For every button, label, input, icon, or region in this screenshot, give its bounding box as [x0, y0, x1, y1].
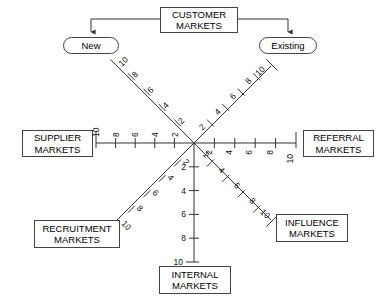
tick-label-internal-8: 8: [181, 233, 186, 243]
influence-markets-box[interactable]: INFLUENCE MARKETS: [276, 214, 348, 242]
tick-existing-2: [207, 120, 214, 127]
tick-label-referral-10: 10: [285, 154, 295, 164]
tick-existing-6: [238, 89, 245, 96]
tick-label-supplier-4: 4: [150, 132, 160, 137]
connector-right-branch: [238, 19, 288, 32]
supplier-markets-line2: MARKETS: [35, 144, 81, 156]
tick-recruitment-2: [174, 160, 181, 167]
axis-existing-customer: 2 4 6 8 10: [194, 60, 278, 144]
tick-recruitment-6: [143, 190, 150, 197]
tick-label-internal-4: 4: [181, 186, 186, 196]
tick-label-supplier-2: 2: [170, 132, 180, 137]
tick-influence-8: [253, 206, 260, 213]
tick-label-recruitment-6: 6: [150, 188, 161, 199]
tick-label-referral-6: 6: [244, 150, 254, 155]
internal-markets-box[interactable]: INTERNAL MARKETS: [159, 266, 231, 294]
customer-markets-line1: CUSTOMER: [172, 9, 226, 21]
tick-label-new-6: 6: [145, 85, 156, 96]
customer-markets-box[interactable]: CUSTOMER MARKETS: [160, 7, 238, 33]
tick-label-internal-6: 6: [181, 209, 186, 219]
recruitment-markets-line1: RECRUITMENT: [42, 223, 111, 235]
tick-influence-4: [222, 175, 229, 182]
tick-label-referral-4: 4: [224, 150, 234, 155]
influence-markets-line2: MARKETS: [289, 228, 335, 240]
customer-markets-line2: MARKETS: [176, 20, 222, 32]
six-markets-diagram: 2 4 6 8 10 2 4 6 8 10 2: [0, 0, 384, 303]
supplier-markets-line1: SUPPLIER: [34, 132, 81, 144]
recruitment-markets-line2: MARKETS: [54, 234, 100, 246]
tick-label-referral-8: 8: [265, 150, 275, 155]
recruitment-markets-box[interactable]: RECRUITMENT MARKETS: [34, 220, 120, 248]
tick-label-new-10: 10: [116, 54, 130, 68]
existing-customers-label: Existing: [271, 40, 304, 51]
referral-markets-line1: REFERRAL: [313, 132, 364, 144]
supplier-markets-box[interactable]: SUPPLIER MARKETS: [22, 130, 93, 157]
new-customers-pill[interactable]: New: [63, 37, 119, 54]
tick-label-recruitment-8: 8: [135, 203, 146, 214]
existing-customers-pill[interactable]: Existing: [259, 37, 317, 54]
axis-line-new: [117, 66, 194, 143]
tick-label-new-8: 8: [130, 69, 141, 80]
internal-markets-line2: MARKETS: [172, 280, 218, 292]
tick-recruitment-4: [159, 175, 166, 182]
referral-markets-box[interactable]: REFERRAL MARKETS: [303, 130, 374, 157]
influence-markets-line1: INFLUENCE: [285, 217, 339, 229]
tick-label-supplier-8: 8: [111, 132, 121, 137]
new-customers-label: New: [81, 40, 100, 51]
tick-recruitment-8: [128, 206, 135, 213]
internal-markets-line1: INTERNAL: [172, 269, 219, 281]
tick-influence-6: [238, 190, 245, 197]
tick-label-supplier-6: 6: [130, 132, 140, 137]
tick-label-recruitment-4: 4: [166, 172, 177, 183]
tick-influence-2: [207, 160, 214, 167]
axis-new-customer: 2 4 6 8 10: [111, 54, 195, 143]
tick-label-recruitment-10: 10: [119, 218, 133, 232]
connector-left-branch: [91, 19, 160, 32]
tick-label-new-4: 4: [160, 100, 171, 111]
tick-label-new-2: 2: [176, 115, 187, 126]
referral-markets-line2: MARKETS: [316, 144, 362, 156]
axis-supplier: 2 4 6 8 10: [91, 127, 194, 148]
tick-existing-4: [222, 104, 229, 111]
